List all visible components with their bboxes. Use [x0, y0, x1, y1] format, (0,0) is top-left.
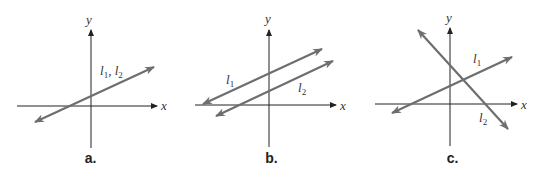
line-label-l1-l2: l1, l2	[100, 63, 123, 80]
y-axis-label: y	[263, 11, 271, 26]
line-l1-l2	[35, 67, 154, 122]
line-l2	[418, 30, 508, 129]
line-l1	[392, 57, 512, 113]
caption-a: a.	[0, 150, 181, 166]
y-axis-label: y	[444, 10, 452, 25]
caption-b: b.	[181, 150, 362, 166]
x-axis-label: x	[339, 98, 346, 113]
line-label-l1: l1	[226, 72, 234, 89]
panel-c-intersecting: x y l1 l2 c.	[362, 0, 543, 183]
line-label-l2: l2	[298, 80, 306, 97]
panel-a-coincident: x y l1, l2 a.	[0, 0, 181, 183]
x-axis-label: x	[520, 97, 527, 112]
line-label-l1: l1	[473, 51, 481, 68]
y-axis-label: y	[84, 12, 92, 27]
x-axis-label: x	[160, 98, 167, 113]
caption-c: c.	[362, 150, 543, 166]
line-label-l2: l2	[479, 110, 487, 127]
panel-b-parallel: x y l1 l2 b.	[181, 0, 362, 183]
